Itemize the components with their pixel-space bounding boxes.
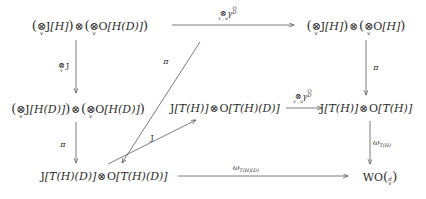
label-upper-diagonal-pi: π [163, 58, 168, 66]
node-bottom-right: WO(dv) [363, 170, 397, 183]
node-mid-left: (⊗vJ[H(D)])⊗(⊗vO[H(D)]) [11, 102, 145, 115]
label-top-horizontal: ⊗v , uγOD [219, 8, 238, 18]
label-left-lower-vertical: π [60, 141, 65, 149]
node-top-left: (⊗vJ[H])⊗(⊗vO[H(D)]) [32, 19, 148, 32]
label-lower-diagonal-j: J [150, 134, 153, 142]
label-left-upper-vertical: ⊗vJ [57, 62, 69, 70]
node-mid-right: J[T(H)]⊗O[T(H)] [320, 103, 412, 114]
arrow-lower-diagonal-j [108, 120, 196, 164]
label-bottom-horizontal: ωT(H)(D) [233, 164, 259, 172]
label-mid-horizontal: ⊗v , uγOD [294, 91, 313, 101]
node-top-right: (⊗vJ[H])⊗(⊗vO[H]) [307, 19, 406, 32]
node-mid-center: J[T(H)]⊗O[T(H)(D)] [170, 103, 280, 114]
commutative-diagram: (⊗vJ[H])⊗(⊗vO[H(D)]) (⊗vJ[H])⊗(⊗vO[H]) (… [0, 0, 426, 199]
label-right-lower-vertical: ωT(H) [373, 139, 391, 147]
label-right-upper-vertical: π [373, 64, 378, 72]
node-bottom-left: J[T(H)(D)]⊗O[T(H)(D)] [40, 171, 167, 182]
